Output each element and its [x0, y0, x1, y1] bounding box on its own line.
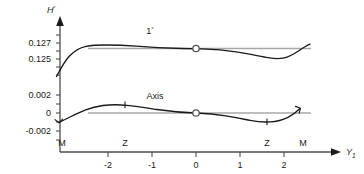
x-tick-label-neg2: -2 [104, 160, 112, 170]
upper-panel: 1° [57, 26, 312, 77]
y-axis [56, 16, 64, 152]
upper-curve-label: 1° [146, 26, 154, 36]
x-axis-label: Y1 [346, 147, 356, 159]
upper-origin-marker [193, 45, 199, 51]
annotation-m-left: M [58, 138, 66, 148]
x-tick-label-neg1: -1 [148, 160, 156, 170]
annotation-z-left: Z [122, 138, 128, 148]
x-tick-label-2: 2 [281, 160, 286, 170]
y-tick-label-neg0002: -0.002 [25, 126, 51, 136]
lower-panel: Axis [55, 91, 311, 125]
x-tick-label-0: 0 [193, 160, 198, 170]
lower-origin-marker [193, 110, 199, 116]
y-tick-label-0127: 0.127 [28, 38, 51, 48]
lower-curve-label: Axis [146, 91, 164, 101]
x-axis-arrowhead [331, 148, 341, 155]
y-axis-label: H′ [47, 5, 56, 15]
chart-plot-area: H′ 0.127 0.125 0.002 0 -0.002 [0, 0, 364, 174]
chart-figure: H′ 0.127 0.125 0.002 0 -0.002 [0, 0, 364, 174]
x-axis-ticks [108, 152, 284, 157]
y-axis-arrowhead [56, 16, 64, 26]
x-axis [60, 148, 341, 155]
annotation-z-right: Z [264, 138, 270, 148]
annotation-m-right: M [299, 138, 307, 148]
x-tick-label-1: 1 [237, 160, 242, 170]
y-tick-label-0125: 0.125 [28, 54, 51, 64]
y-tick-label-0002: 0.002 [28, 90, 51, 100]
y-tick-label-0: 0 [46, 108, 51, 118]
